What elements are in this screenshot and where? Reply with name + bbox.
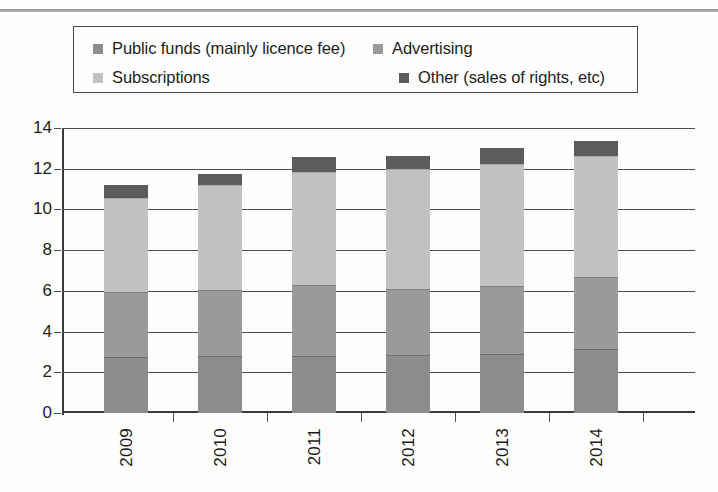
y-axis-tick-mark — [54, 413, 61, 414]
bar-segment-oth-2013[interactable] — [480, 148, 524, 163]
legend-item-advertising: Advertising — [373, 39, 473, 58]
gridline — [62, 128, 695, 129]
y-axis-tick-mark — [54, 372, 61, 373]
legend-item-other: Other (sales of rights, etc) — [399, 68, 605, 87]
bar-segment-sub-2012[interactable] — [386, 169, 430, 289]
y-axis-tick-label: 2 — [43, 362, 52, 382]
bar-2010[interactable] — [198, 174, 242, 413]
legend-row: Public funds (mainly licence fee) Advert… — [74, 34, 637, 63]
plot-area — [62, 128, 695, 413]
bar-segment-adv-2014[interactable] — [574, 277, 618, 349]
legend-swatch-advertising-icon — [373, 44, 383, 54]
chart-legend: Public funds (mainly licence fee) Advert… — [73, 26, 638, 93]
legend-label-subscriptions: Subscriptions — [112, 68, 210, 87]
bar-segment-sub-2011[interactable] — [292, 172, 336, 285]
bar-segment-adv-2010[interactable] — [198, 290, 242, 356]
legend-item-public-funds: Public funds (mainly licence fee) — [93, 39, 373, 58]
bar-segment-oth-2010[interactable] — [198, 174, 242, 185]
legend-swatch-other-icon — [399, 73, 409, 83]
legend-label-other: Other (sales of rights, etc) — [418, 68, 605, 87]
bar-segment-pub-2011[interactable] — [292, 356, 336, 413]
x-axis-tick-mark — [643, 413, 644, 422]
y-axis-tick-label: 10 — [33, 199, 52, 219]
y-axis-tick-label: 4 — [43, 322, 52, 342]
y-axis-tick-label: 12 — [33, 159, 52, 179]
x-axis-label-2009: 2009 — [117, 428, 137, 467]
bar-2009[interactable] — [104, 185, 148, 413]
y-axis-tick-mark — [54, 291, 61, 292]
top-caption-strip — [0, 0, 718, 12]
bar-2011[interactable] — [292, 157, 336, 413]
y-axis-tick-label: 0 — [43, 403, 52, 423]
bar-segment-sub-2010[interactable] — [198, 185, 242, 290]
legend-row: Subscriptions Other (sales of rights, et… — [74, 63, 637, 92]
x-axis-tick-mark — [549, 413, 550, 422]
legend-label-public-funds: Public funds (mainly licence fee) — [112, 39, 345, 58]
y-axis-tick-mark — [54, 250, 61, 251]
y-axis-tick-mark — [54, 128, 61, 129]
bar-segment-pub-2010[interactable] — [198, 356, 242, 413]
y-axis-tick-mark — [54, 209, 61, 210]
bar-segment-sub-2013[interactable] — [480, 164, 524, 286]
bar-segment-adv-2009[interactable] — [104, 292, 148, 357]
y-axis-tick-label: 14 — [33, 118, 52, 138]
bar-segment-oth-2012[interactable] — [386, 156, 430, 169]
bar-2013[interactable] — [480, 148, 524, 413]
x-axis-label-2010: 2010 — [211, 428, 231, 467]
legend-label-advertising: Advertising — [392, 39, 473, 58]
bar-2014[interactable] — [574, 141, 618, 413]
bar-segment-oth-2014[interactable] — [574, 141, 618, 155]
bar-segment-adv-2011[interactable] — [292, 285, 336, 356]
legend-item-subscriptions: Subscriptions — [93, 68, 373, 87]
bar-segment-pub-2009[interactable] — [104, 357, 148, 413]
bar-segment-pub-2014[interactable] — [574, 349, 618, 413]
bar-segment-oth-2011[interactable] — [292, 157, 336, 172]
x-axis-tick-mark — [361, 413, 362, 422]
y-axis-tick-label: 8 — [43, 240, 52, 260]
x-axis-tick-mark — [173, 413, 174, 422]
horizontal-rule — [0, 9, 718, 12]
legend-swatch-public-funds-icon — [93, 44, 103, 54]
bar-2012[interactable] — [386, 156, 430, 413]
bar-segment-sub-2009[interactable] — [104, 198, 148, 292]
legend-swatch-subscriptions-icon — [93, 73, 103, 83]
x-axis-tick-mark — [455, 413, 456, 422]
x-axis-tick-mark — [267, 413, 268, 422]
bar-segment-adv-2013[interactable] — [480, 286, 524, 354]
y-axis-tick-label: 6 — [43, 281, 52, 301]
bar-segment-pub-2013[interactable] — [480, 354, 524, 413]
bar-segment-adv-2012[interactable] — [386, 289, 430, 355]
x-axis-label-2013: 2013 — [493, 428, 513, 467]
x-axis-label-2011: 2011 — [305, 428, 325, 465]
bar-segment-sub-2014[interactable] — [574, 156, 618, 277]
y-axis-tick-mark — [54, 332, 61, 333]
x-axis-label-2012: 2012 — [399, 428, 419, 467]
y-axis-tick-mark — [54, 169, 61, 170]
bar-segment-oth-2009[interactable] — [104, 185, 148, 198]
y-axis-labels: 02468101214 — [0, 128, 52, 413]
bar-segment-pub-2012[interactable] — [386, 355, 430, 413]
x-axis-label-2014: 2014 — [587, 428, 607, 467]
